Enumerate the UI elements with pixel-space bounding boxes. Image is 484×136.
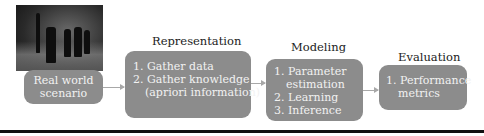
modeling-box: 1. Parameter estimation 2. Learning 3. I…	[266, 59, 363, 121]
lamp-post	[36, 13, 40, 53]
evaluation-item: 1. Performance	[386, 74, 467, 87]
pedestrian-figure	[46, 27, 56, 63]
real-world-label: Real world	[33, 74, 93, 87]
evaluation-item: metrics	[386, 87, 467, 100]
modeling-item: 2. Learning	[274, 91, 363, 104]
representation-item: 2. Gather knowledge	[133, 73, 251, 86]
modeling-title: Modeling	[291, 40, 346, 54]
arrow-to-representation	[103, 87, 124, 88]
evaluation-title: Evaluation	[398, 50, 460, 64]
representation-box: 1. Gather data 2. Gather knowledge (apri…	[125, 51, 251, 118]
pedestrian-figure	[74, 27, 82, 57]
street-scene-photo	[16, 5, 103, 71]
arrow-to-evaluation	[363, 90, 378, 91]
scenario-label: scenario	[40, 87, 87, 100]
arrow-to-modeling	[251, 83, 265, 84]
bottom-rule	[0, 130, 484, 133]
representation-item: (apriori information)	[133, 86, 251, 99]
pedestrian-figure	[84, 30, 90, 54]
representation-title: Representation	[152, 34, 241, 48]
real-world-scenario-box: Real world scenario	[24, 70, 103, 104]
modeling-item: estimation	[274, 78, 363, 91]
evaluation-box: 1. Performance metrics	[379, 65, 467, 110]
modeling-item: 1. Parameter	[274, 65, 363, 78]
pedestrian-figure	[64, 29, 71, 57]
modeling-item: 3. Inference	[274, 104, 363, 117]
representation-item: 1. Gather data	[133, 60, 251, 73]
